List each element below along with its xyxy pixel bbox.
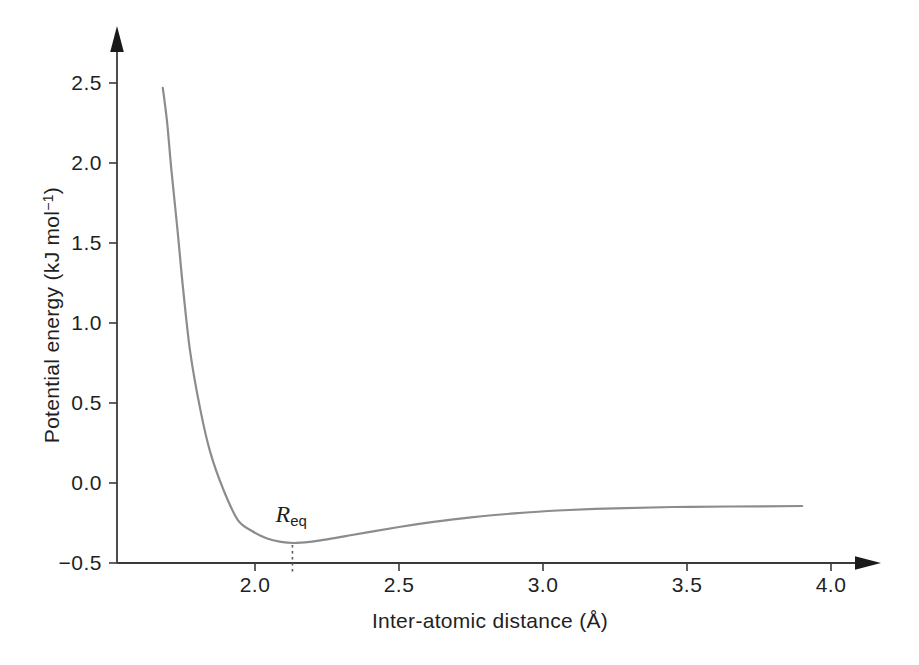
chart-canvas [0, 0, 919, 665]
y-tick-label: 2.5 [36, 71, 102, 95]
y-tick-label: 0.0 [36, 471, 102, 495]
x-tick-label: 2.0 [219, 573, 291, 597]
y-tick-label: −0.5 [36, 551, 102, 575]
potential-energy-figure: 2.52.01.51.00.50.0−0.5 2.02.53.03.54.0 P… [0, 0, 919, 665]
y-tick-label: 2.0 [36, 151, 102, 175]
x-axis-label: Inter-atomic distance (Å) [290, 609, 690, 633]
x-tick-label: 3.0 [507, 573, 579, 597]
equilibrium-distance-annotation: Req [276, 501, 307, 529]
x-tick-label: 4.0 [795, 573, 867, 597]
y-axis-label-text: Potential energy (kJ mol [40, 211, 63, 443]
annotation-symbol: R [276, 501, 291, 527]
potential-energy-curve [163, 88, 802, 543]
x-tick-label: 3.5 [651, 573, 723, 597]
y-axis-label-close-paren: ) [40, 187, 63, 194]
x-tick-label: 2.5 [363, 573, 435, 597]
x-axis-arrowhead [855, 556, 881, 570]
y-axis-arrowhead [110, 26, 124, 52]
y-axis-label-superscript: −1 [40, 194, 56, 211]
y-axis-label: Potential energy (kJ mol−1) [40, 187, 64, 443]
annotation-subscript: eq [290, 512, 307, 529]
